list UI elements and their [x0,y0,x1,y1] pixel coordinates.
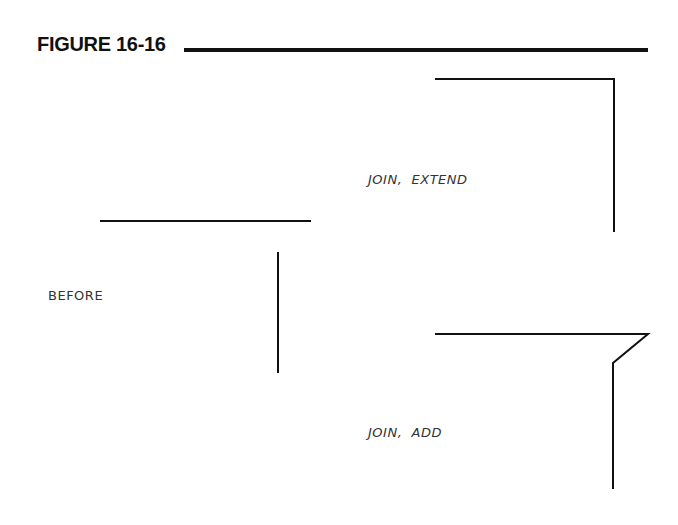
label-join-extend: JOIN, EXTEND [368,172,468,187]
label-join-add: JOIN, ADD [368,425,442,440]
diagram-canvas [0,0,678,525]
join-extend-corner [435,79,614,232]
label-before: BEFORE [48,288,103,303]
join-add-corner [435,334,648,489]
join-extend-lines [435,79,614,232]
before-lines [100,221,311,373]
join-add-lines [435,334,648,489]
